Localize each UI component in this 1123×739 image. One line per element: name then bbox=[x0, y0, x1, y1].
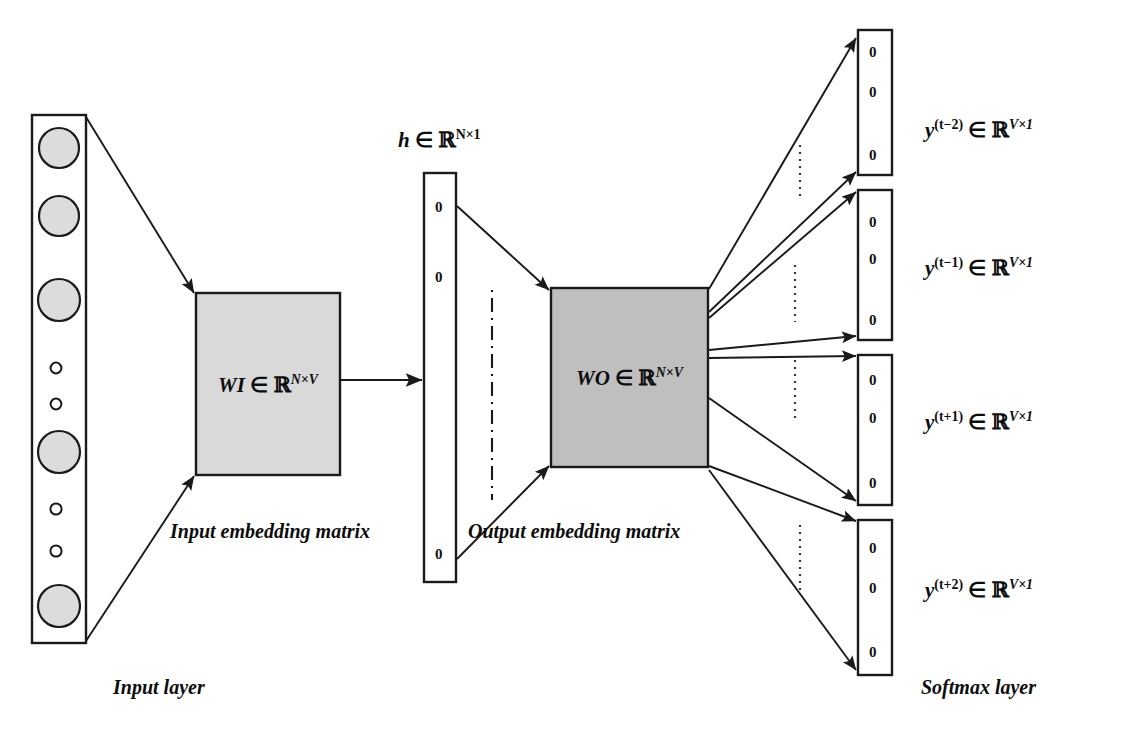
element-of-symbol: ∈ bbox=[968, 578, 986, 602]
softmax-cell: 0 bbox=[869, 541, 877, 556]
softmax-var: y bbox=[925, 578, 934, 602]
reals-symbol: ℝ bbox=[992, 255, 1009, 280]
output-matrix-dims: N×V bbox=[656, 365, 683, 380]
output-embedding-matrix-caption: Output embedding matrix bbox=[468, 521, 680, 541]
softmax-cell: 0 bbox=[869, 85, 877, 100]
element-of-symbol: ∈ bbox=[968, 256, 986, 280]
diagram-canvas: h ∈ ℝN×1 WI ∈ ℝN×V WO ∈ ℝN×V Input embed… bbox=[0, 0, 1123, 739]
input-embedding-matrix-label: WI ∈ ℝN×V bbox=[196, 293, 340, 475]
softmax-timestep: (t+1) bbox=[934, 409, 963, 424]
reals-symbol: ℝ bbox=[992, 409, 1009, 434]
softmax-timestep: (t−2) bbox=[934, 117, 963, 132]
output-embedding-matrix-label: WO ∈ ℝN×V bbox=[551, 288, 708, 467]
input-matrix-var: WI bbox=[218, 373, 245, 397]
softmax-dims: V×1 bbox=[1009, 255, 1033, 270]
element-of-symbol: ∈ bbox=[615, 366, 633, 390]
softmax-var: y bbox=[925, 118, 934, 142]
softmax-cell: 0 bbox=[869, 252, 877, 267]
reals-symbol: ℝ bbox=[438, 127, 455, 152]
softmax-dims: V×1 bbox=[1009, 409, 1033, 424]
softmax-vector-label: y(t+1) ∈ ℝV×1 bbox=[925, 410, 1033, 433]
softmax-cell: 0 bbox=[869, 476, 877, 491]
softmax-cell: 0 bbox=[869, 373, 877, 388]
softmax-vector-label: y(t+2) ∈ ℝV×1 bbox=[925, 578, 1033, 601]
element-of-symbol: ∈ bbox=[968, 118, 986, 142]
softmax-cell: 0 bbox=[869, 581, 877, 596]
output-matrix-var: WO bbox=[576, 366, 610, 390]
softmax-layer-caption: Softmax layer bbox=[921, 677, 1036, 697]
softmax-timestep: (t+2) bbox=[934, 577, 963, 592]
element-of-symbol: ∈ bbox=[415, 128, 433, 152]
softmax-cell: 0 bbox=[869, 313, 877, 328]
softmax-cell: 0 bbox=[869, 411, 877, 426]
softmax-vector-label: y(t−2) ∈ ℝV×1 bbox=[925, 118, 1033, 141]
input-matrix-dims: N×V bbox=[291, 372, 318, 387]
softmax-dims: V×1 bbox=[1009, 577, 1033, 592]
softmax-cell: 0 bbox=[869, 45, 877, 60]
hidden-layer-box bbox=[424, 173, 456, 582]
input-to-input-matrix-connectors bbox=[86, 117, 194, 641]
reals-symbol: ℝ bbox=[273, 372, 290, 397]
reals-symbol: ℝ bbox=[638, 365, 655, 390]
hidden-layer-dims: N×1 bbox=[456, 127, 481, 142]
input-layer-caption: Input layer bbox=[113, 677, 205, 697]
hidden-layer-cell: 0 bbox=[435, 270, 443, 285]
hidden-layer-var: h bbox=[398, 128, 410, 152]
softmax-cell: 0 bbox=[869, 645, 877, 660]
element-of-symbol: ∈ bbox=[968, 410, 986, 434]
softmax-cell: 0 bbox=[869, 148, 877, 163]
input-layer-box bbox=[32, 115, 86, 643]
hidden-layer-cell: 0 bbox=[435, 547, 443, 562]
element-of-symbol: ∈ bbox=[250, 373, 268, 397]
hidden-layer-cell: 0 bbox=[435, 200, 443, 215]
reals-symbol: ℝ bbox=[992, 577, 1009, 602]
softmax-dims: V×1 bbox=[1009, 117, 1033, 132]
hidden-layer-label: h ∈ ℝN×1 bbox=[398, 128, 480, 151]
softmax-gap-ellipses bbox=[795, 145, 800, 592]
softmax-var: y bbox=[925, 256, 934, 280]
softmax-vector-label: y(t−1) ∈ ℝV×1 bbox=[925, 256, 1033, 279]
softmax-var: y bbox=[925, 410, 934, 434]
output-matrix-to-softmax-arrows bbox=[709, 38, 856, 670]
softmax-timestep: (t−1) bbox=[934, 255, 963, 270]
input-embedding-matrix-caption: Input embedding matrix bbox=[170, 521, 370, 541]
reals-symbol: ℝ bbox=[992, 117, 1009, 142]
softmax-cell: 0 bbox=[869, 215, 877, 230]
hidden-to-output-matrix-connectors bbox=[457, 206, 549, 559]
